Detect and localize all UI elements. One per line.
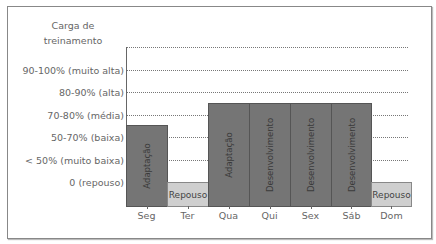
- bar-label: Adaptação: [142, 143, 152, 188]
- bar-label: Repouso: [372, 190, 411, 200]
- x-label-seg: Seg: [126, 210, 167, 221]
- y-label-0: 0 (repouso): [69, 177, 124, 188]
- x-label-sab: Sáb: [331, 210, 372, 221]
- gridline-top: [127, 47, 408, 48]
- y-label-70-80: 70-80% (média): [47, 110, 124, 121]
- x-label-dom: Dom: [371, 210, 412, 221]
- x-tick: [229, 206, 230, 209]
- y-label-50-70: 50-70% (baixa): [51, 132, 124, 143]
- x-label-qua: Qua: [208, 210, 249, 221]
- gridline-80-90: [127, 92, 408, 93]
- bar-label: Adaptação: [224, 132, 234, 177]
- bar-qua: Adaptação: [208, 103, 250, 207]
- gridline-90-100: [127, 70, 408, 71]
- bar-seg: Adaptação: [126, 125, 168, 207]
- x-label-ter: Ter: [167, 210, 208, 221]
- x-tick: [270, 206, 271, 209]
- bar-sab: Desenvolvimento: [331, 103, 372, 207]
- x-tick: [351, 206, 352, 209]
- x-label-qui: Qui: [249, 210, 290, 221]
- bar-label: Desenvolvimento: [306, 118, 316, 192]
- y-label-80-90: 80-90% (alta): [59, 87, 124, 98]
- x-tick: [391, 206, 392, 209]
- y-title-line1: Carga de: [40, 18, 106, 33]
- bar-ter: Repouso: [167, 182, 209, 207]
- bar-dom: Repouso: [371, 182, 412, 207]
- bar-label: Repouso: [169, 190, 208, 200]
- bar-label: Desenvolvimento: [265, 118, 275, 192]
- y-title-line2: treinamento: [40, 33, 106, 48]
- y-label-lt-50: < 50% (muito baixa): [25, 155, 124, 166]
- x-tick: [311, 206, 312, 209]
- x-tick: [188, 206, 189, 209]
- y-axis-title: Carga de treinamento: [40, 18, 106, 48]
- x-label-sex: Sex: [290, 210, 331, 221]
- x-tick: [147, 206, 148, 209]
- bar-sex: Desenvolvimento: [290, 103, 332, 207]
- y-label-90-100: 90-100% (muito alta): [22, 65, 124, 76]
- bar-qui: Desenvolvimento: [249, 103, 291, 207]
- bar-label: Desenvolvimento: [347, 118, 357, 192]
